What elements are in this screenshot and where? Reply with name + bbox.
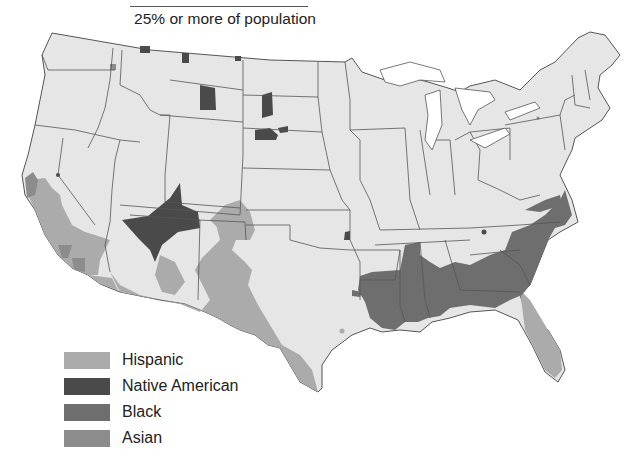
legend-label: Hispanic (122, 351, 183, 369)
native-american-swatch (64, 378, 110, 395)
legend-item-asian: Asian (64, 425, 239, 451)
legend-label: Black (122, 403, 161, 421)
asian-swatch (64, 430, 110, 447)
black-swatch (64, 404, 110, 421)
map-legend: Hispanic Native American Black Asian (64, 347, 239, 451)
legend-item-black: Black (64, 399, 239, 425)
legend-label: Asian (122, 429, 162, 447)
legend-item-hispanic: Hispanic (64, 347, 239, 373)
legend-label: Native American (122, 377, 239, 395)
hispanic-swatch (64, 352, 110, 369)
legend-item-native-american: Native American (64, 373, 239, 399)
